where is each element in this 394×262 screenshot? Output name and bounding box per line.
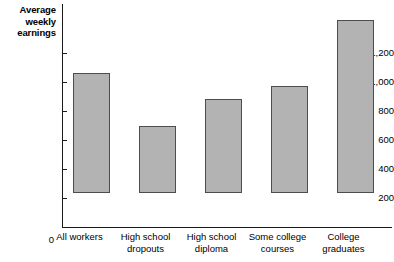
bar-all-workers bbox=[73, 73, 110, 193]
y-axis-title-line-1: Average bbox=[0, 4, 56, 16]
bar-some-college-courses bbox=[271, 86, 308, 193]
category-label-line: graduates bbox=[303, 243, 384, 255]
bar-chart: Average weekly earnings $1,200 1,000 800… bbox=[0, 0, 394, 262]
category-label-college-graduates: College graduates bbox=[303, 231, 384, 254]
bar-college-graduates bbox=[337, 20, 374, 193]
category-label-line: College bbox=[303, 231, 384, 243]
bar-high-school-diploma bbox=[205, 99, 242, 193]
bars-layer bbox=[62, 0, 392, 228]
bar-high-school-dropouts bbox=[139, 126, 176, 193]
y-axis-title-line-3: earnings bbox=[0, 27, 56, 39]
y-axis-title-line-2: weekly bbox=[0, 16, 56, 28]
y-axis-title: Average weekly earnings bbox=[0, 4, 56, 39]
